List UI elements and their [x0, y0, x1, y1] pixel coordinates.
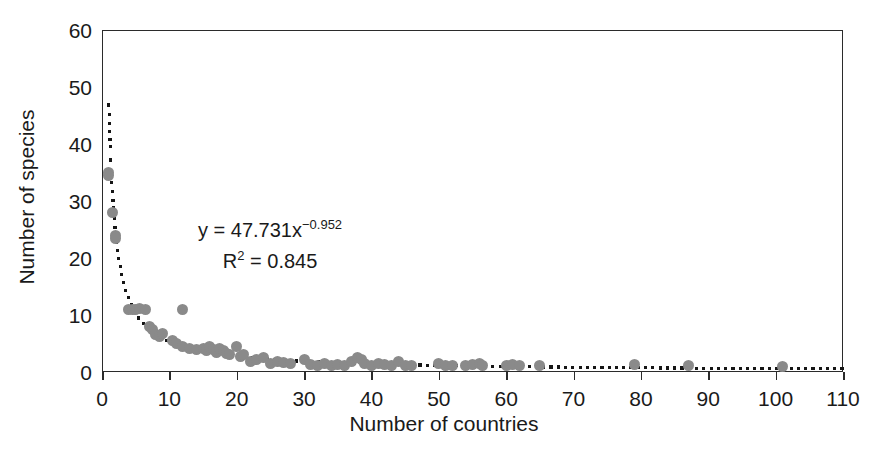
trendline-dot — [109, 145, 112, 148]
trendline-dot — [797, 367, 800, 370]
trendline-dot — [615, 366, 618, 369]
x-tick-mark — [304, 372, 306, 380]
chart-figure: 0102030405060 0102030405060708090100110 … — [0, 0, 888, 451]
x-tick-mark — [439, 372, 441, 380]
trendline-dot — [117, 257, 120, 260]
x-axis-title: Number of countries — [0, 412, 888, 436]
trendline-dot — [702, 367, 705, 370]
trendline-dot — [768, 367, 771, 370]
data-point — [514, 360, 525, 371]
data-point — [683, 360, 694, 371]
trendline-dot — [746, 367, 749, 370]
data-point — [534, 360, 545, 371]
trendline-dot — [122, 281, 125, 284]
y-tick-label: 20 — [69, 248, 92, 269]
x-tick-mark — [371, 372, 373, 380]
y-tick-label: 60 — [69, 20, 92, 41]
x-tick-label: 60 — [494, 388, 517, 409]
trendline-dot — [811, 367, 814, 370]
trendline-dot — [557, 365, 560, 368]
trendline-dot — [673, 366, 676, 369]
x-tick-label: 40 — [360, 388, 383, 409]
x-tick-label: 110 — [826, 388, 859, 409]
trendline-dot — [666, 366, 669, 369]
data-point — [140, 304, 151, 315]
regression-annotation: y = 47.731x−0.952 R2 = 0.845 — [198, 212, 342, 273]
trendline-dot — [120, 273, 123, 276]
x-tick-label: 70 — [562, 388, 585, 409]
trendline-dot — [717, 367, 720, 370]
y-tick-label: 10 — [69, 305, 92, 326]
y-tick-label: 50 — [69, 77, 92, 98]
x-tick-mark — [641, 372, 643, 380]
trendline-dot — [790, 367, 793, 370]
equation-exponent: −0.952 — [302, 217, 342, 232]
trendline-dot — [586, 366, 589, 369]
trendline-dot — [731, 367, 734, 370]
trendline-dot — [571, 366, 574, 369]
x-tick-mark — [776, 372, 778, 380]
r-squared-value: = 0.845 — [244, 249, 317, 271]
data-point — [629, 359, 640, 370]
trendline-dot — [724, 367, 727, 370]
trendline-dot — [109, 158, 112, 161]
trendline-dot — [111, 190, 114, 193]
trendline-dot — [491, 365, 494, 368]
trendline-dot — [600, 366, 603, 369]
trendline-dot — [119, 265, 122, 268]
trendline-dot — [426, 364, 429, 367]
data-point — [777, 361, 788, 372]
trendline-dot — [107, 103, 110, 106]
trendline-dot — [127, 296, 130, 299]
x-tick-label: 20 — [225, 388, 248, 409]
trendline-dot — [528, 365, 531, 368]
trendline-dot — [137, 316, 140, 319]
x-tick-mark — [574, 372, 576, 380]
plot-area — [102, 30, 843, 372]
trendline-dot — [108, 130, 111, 133]
trendline-dot — [111, 199, 114, 202]
x-tick-mark — [708, 372, 710, 380]
y-tick-label: 30 — [69, 191, 92, 212]
data-point — [107, 207, 118, 218]
trendline-dot — [593, 366, 596, 369]
trendline-dot — [659, 366, 662, 369]
x-axis-tick-labels: 0102030405060708090100110 — [0, 380, 888, 410]
trendline-dot — [608, 366, 611, 369]
trendline-dot — [564, 366, 567, 369]
data-point — [177, 304, 188, 315]
trendline-dot — [753, 367, 756, 370]
x-tick-mark — [843, 372, 845, 380]
trendline-dot — [579, 366, 582, 369]
data-point — [477, 360, 488, 371]
r-squared-base: R — [223, 249, 237, 271]
data-point — [103, 170, 114, 181]
trendline-dot — [116, 249, 119, 252]
trendline-dot — [108, 122, 111, 125]
trendline-dot — [695, 367, 698, 370]
trendline-dot — [418, 363, 421, 366]
trendline-dot — [840, 367, 843, 370]
trendline-dot — [710, 367, 713, 370]
trendline-dot — [110, 181, 113, 184]
trendline-dot — [549, 365, 552, 368]
y-axis-title: Number of species — [15, 47, 39, 347]
x-tick-label: 90 — [697, 388, 720, 409]
trendline-dot — [739, 367, 742, 370]
trendline-dot — [622, 366, 625, 369]
data-point — [285, 358, 296, 369]
trendline-dot — [651, 366, 654, 369]
x-tick-mark — [169, 372, 171, 380]
x-tick-label: 0 — [96, 388, 108, 409]
x-tick-label: 100 — [758, 388, 793, 409]
data-point — [110, 233, 121, 244]
trendline-dot — [124, 289, 127, 292]
x-tick-mark — [237, 372, 239, 380]
trendline-dot — [804, 367, 807, 370]
trendline-dot — [819, 367, 822, 370]
x-tick-label: 80 — [629, 388, 652, 409]
trendline-dot — [108, 138, 111, 141]
data-point — [406, 360, 417, 371]
trendline-dot — [644, 366, 647, 369]
data-point — [447, 360, 458, 371]
